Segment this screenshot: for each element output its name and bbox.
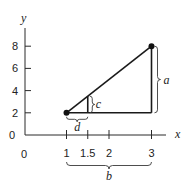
start-point-dot: [64, 110, 70, 116]
label-c: c: [96, 97, 102, 111]
x-axis-label: x: [174, 127, 181, 141]
measure-labels: a b c d: [74, 73, 169, 184]
triangle: [64, 43, 155, 116]
brace-b: [67, 162, 152, 169]
x-tick-label: 1.5: [80, 147, 95, 159]
x-tick-label: 3: [148, 147, 154, 159]
y-tick-label: 4: [12, 85, 18, 97]
brace-a: [155, 46, 161, 113]
brace-c: [90, 96, 95, 113]
label-a: a: [164, 73, 170, 87]
y-axis-label: y: [20, 11, 27, 25]
slope-triangle-diagram: y x 0 0 246811.523 a b c d: [0, 0, 195, 184]
end-point-dot: [149, 43, 155, 49]
y-tick-label: 6: [12, 62, 18, 74]
y-tick-label: 8: [12, 40, 18, 52]
x-tick-label: 2: [106, 147, 112, 159]
hypotenuse-line: [67, 46, 152, 113]
x-tick-label: 1: [63, 147, 69, 159]
y-origin-label: 0: [9, 129, 15, 141]
label-d: d: [74, 120, 81, 134]
y-tick-label: 2: [12, 107, 18, 119]
x-origin-label: 0: [21, 148, 27, 160]
label-b: b: [106, 169, 112, 183]
axes: y x 0 0: [9, 11, 181, 160]
